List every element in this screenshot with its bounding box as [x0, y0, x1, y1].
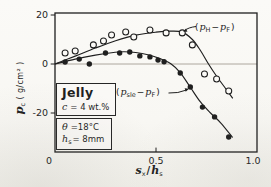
- data-point-filled: [226, 134, 231, 139]
- temperature-row: θ=18°C: [62, 121, 105, 133]
- x-axis-symbol-h: h: [151, 164, 159, 177]
- sample-height-value: = 8mm: [72, 134, 106, 144]
- conditions-box: θ=18°C hs= 8mm: [56, 118, 112, 150]
- data-point-filled: [212, 114, 217, 119]
- y-axis-symbol-subscript: c: [19, 103, 27, 107]
- legend1-minus: −: [211, 22, 221, 32]
- data-point-open: [100, 38, 106, 44]
- legend2-minus: −: [136, 87, 146, 97]
- data-point-filled: [147, 54, 152, 59]
- data-point-filled: [62, 59, 67, 64]
- concentration-row: c= 4 wt.%: [62, 101, 109, 113]
- sample-height-subscript: s: [68, 138, 71, 146]
- data-point-open: [123, 29, 129, 35]
- y-axis-label: pc ( g/cm² ): [12, 32, 26, 144]
- data-point-open: [189, 42, 195, 48]
- y-axis-symbol: p: [12, 107, 26, 115]
- data-point-filled: [127, 49, 132, 54]
- x-tick-label: 0: [46, 155, 52, 166]
- legend2-subscript-1: sle: [127, 91, 136, 99]
- data-point-open: [201, 71, 207, 77]
- data-point-open: [62, 50, 68, 56]
- x-tick-label: 1.0: [245, 155, 260, 166]
- sample-name: Jelly: [62, 85, 109, 101]
- temperature-value: =18°C: [71, 122, 99, 132]
- y-axis-units: ( g/cm² ): [16, 61, 25, 102]
- legend1-paren-close: ): [230, 22, 236, 32]
- data-point-filled: [87, 61, 92, 66]
- data-point-filled: [200, 104, 205, 109]
- data-point-open: [109, 32, 115, 38]
- x-axis-symbol-s-subscript: x: [142, 170, 146, 178]
- data-point-filled: [77, 56, 82, 61]
- data-point-filled: [117, 50, 122, 55]
- data-point-open: [131, 34, 137, 40]
- data-point-filled: [178, 70, 183, 75]
- sample-height-row: hs= 8mm: [62, 133, 105, 146]
- concentration-symbol: c: [62, 101, 67, 112]
- data-point-filled: [161, 59, 166, 64]
- x-axis-label: sx/hs: [103, 164, 195, 178]
- scanned-figure: 200-2000.51.0 pc ( g/cm² ) sx/hs Jelly c…: [0, 0, 271, 187]
- data-point-filled: [103, 50, 108, 55]
- data-point-filled: [137, 53, 142, 58]
- legend2-leader-line: [169, 90, 187, 93]
- y-tick-label: 20: [36, 9, 48, 20]
- data-point-open: [72, 48, 78, 54]
- y-tick-label: -20: [32, 107, 48, 118]
- temperature-symbol: θ: [62, 121, 68, 132]
- legend1-subscript-1: H: [206, 26, 211, 34]
- data-point-filled: [155, 57, 160, 62]
- y-tick-label: 0: [42, 58, 48, 69]
- concentration-value: = 4 wt.%: [70, 102, 109, 112]
- data-point-open: [147, 27, 153, 33]
- legend2-paren-close: ): [155, 87, 161, 97]
- legend-open-series: (pH−pF): [194, 21, 235, 34]
- legend-filled-series: (psle−pF): [115, 86, 161, 99]
- data-point-open: [90, 42, 96, 48]
- data-point-open: [214, 76, 220, 82]
- data-point-open: [163, 30, 169, 36]
- sample-info-box: Jelly c= 4 wt.%: [56, 83, 116, 116]
- data-point-open: [226, 88, 232, 94]
- x-axis-symbol-h-subscript: s: [159, 170, 162, 178]
- legend2-arrowhead: [185, 88, 189, 92]
